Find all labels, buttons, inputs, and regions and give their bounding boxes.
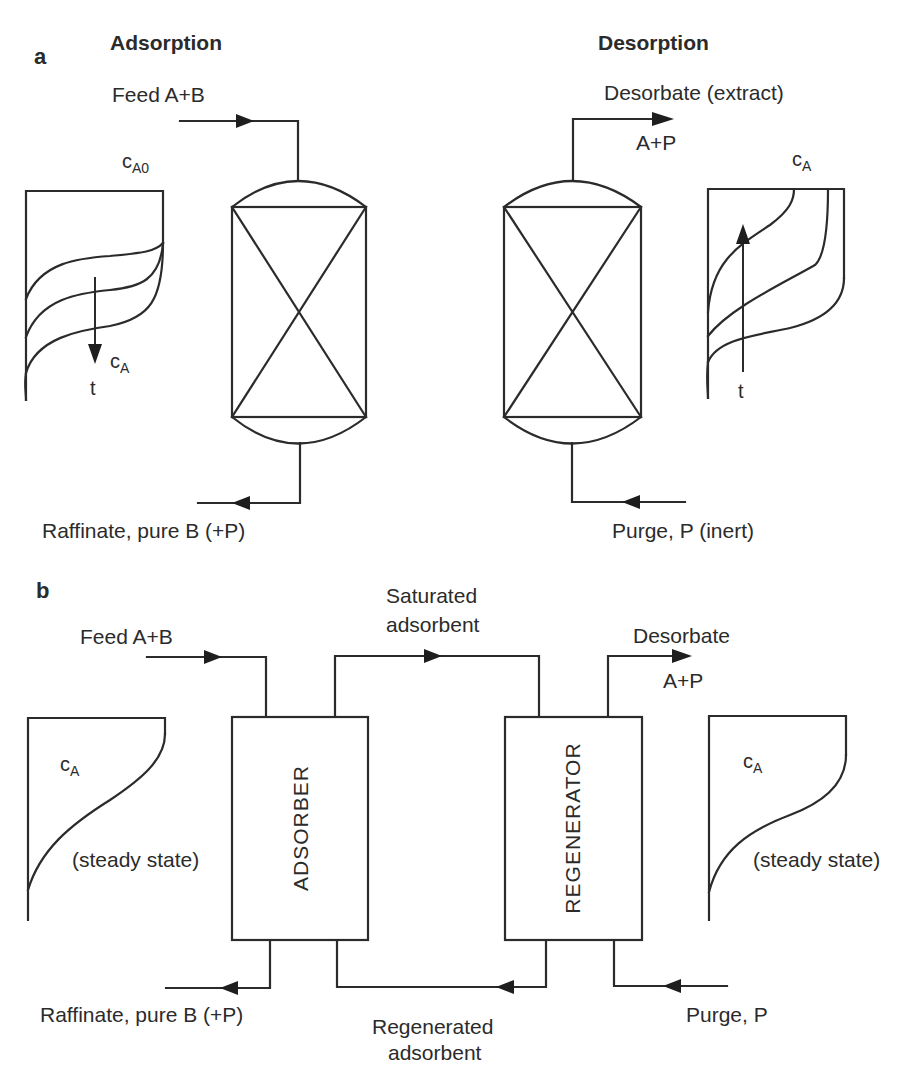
column-top-dome [504, 181, 641, 207]
feed-line [180, 121, 298, 181]
time-arrow-up-icon [736, 224, 750, 244]
adsorption-desorption-diagram: a Adsorption Desorption Feed A+B Raffina… [0, 0, 910, 1082]
saturated-adsorbent-line [335, 656, 539, 717]
purge-label: Purge, P [686, 1003, 768, 1026]
column-bottom-dome [504, 417, 641, 444]
feed-arrow-icon [204, 650, 222, 664]
profile-frame [28, 718, 165, 920]
desorbate-arrow-icon [672, 649, 692, 663]
profile-tail [707, 362, 708, 398]
profile-tail [25, 373, 26, 400]
profile-curve-1 [708, 189, 794, 312]
feed-arrow-icon [236, 114, 254, 128]
profile-frame [709, 716, 846, 920]
desorbate-arrow-icon [652, 112, 674, 126]
steady-state-note: (steady state) [753, 848, 880, 871]
purge-arrow-icon [663, 979, 681, 993]
c-a0-label: cA0 [122, 150, 149, 176]
adsorption-heading: Adsorption [110, 31, 222, 54]
raffinate-arrow-icon [220, 981, 238, 995]
regenerated-label-line1: Regenerated [372, 1015, 493, 1038]
left-steady-state-profile: cA (steady state) [28, 718, 199, 920]
adsorption-column: Feed A+B Raffinate, pure B (+P) [42, 83, 366, 542]
desorption-heading: Desorption [598, 31, 709, 54]
panel-a: a Adsorption Desorption Feed A+B Raffina… [25, 31, 844, 542]
saturated-label-line1: Saturated [386, 584, 477, 607]
profile-curve [709, 755, 846, 892]
c-a-label: cA [743, 750, 763, 776]
saturated-arrow-icon [424, 649, 442, 663]
packing-cross [232, 207, 366, 417]
time-arrow-down-icon [88, 344, 102, 364]
adsorber-label: ADSORBER [289, 765, 312, 891]
raffinate-line [166, 940, 270, 988]
desorption-profile: cA t [707, 148, 844, 402]
time-label: t [90, 377, 96, 399]
raffinate-label: Raffinate, pure B (+P) [42, 519, 245, 542]
raffinate-line [198, 443, 300, 503]
regenerated-arrow-icon [496, 980, 514, 994]
column-bottom-dome [232, 417, 366, 444]
c-a-label: cA [110, 350, 130, 376]
feed-label: Feed A+B [80, 625, 173, 648]
desorbate-species: A+P [636, 131, 676, 154]
purge-arrow-icon [622, 495, 640, 509]
feed-label: Feed A+B [112, 83, 205, 106]
c-a-label: cA [60, 753, 80, 779]
desorbate-label: Desorbate [633, 624, 730, 647]
profile-curve-2 [708, 189, 828, 336]
saturated-label-line2: adsorbent [386, 613, 480, 636]
column-top-dome [232, 181, 366, 207]
purge-line [614, 940, 727, 986]
desorption-column: Desorbate (extract) A+P Purge, P (inert) [504, 81, 784, 542]
regenerated-label-line2: adsorbent [388, 1041, 482, 1064]
purge-inert-label: Purge, P (inert) [612, 519, 754, 542]
right-steady-state-profile: cA (steady state) [709, 716, 880, 920]
panel-letter-b: b [36, 578, 49, 603]
purge-line [572, 443, 685, 502]
desorbate-extract-label: Desorbate (extract) [604, 81, 784, 104]
raffinate-label: Raffinate, pure B (+P) [40, 1003, 243, 1026]
time-label: t [738, 380, 744, 402]
regenerator-label: REGENERATOR [561, 742, 584, 913]
raffinate-arrow-icon [232, 496, 250, 510]
steady-state-note: (steady state) [72, 848, 199, 871]
feed-line [147, 657, 266, 717]
profile-curve-3 [708, 278, 844, 362]
adsorption-profile: cA0 cA t [25, 150, 163, 400]
panel-b: b Feed A+B ADSORBER Saturated adsorbent … [28, 578, 880, 1064]
regenerated-adsorbent-line [337, 940, 546, 987]
panel-letter-a: a [34, 44, 47, 69]
desorbate-species: A+P [663, 669, 703, 692]
packing-cross [504, 207, 641, 417]
c-a-top-label: cA [792, 148, 812, 174]
